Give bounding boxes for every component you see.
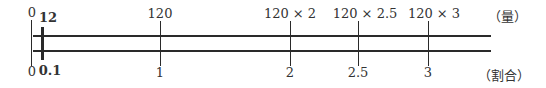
top-label-3: 120 × 3 — [408, 7, 460, 21]
tick-2-5 — [358, 21, 359, 66]
bottom-label-1: 1 — [156, 66, 164, 80]
top-label-1: 120 — [148, 7, 173, 21]
top-label-2-5: 120 × 2.5 — [333, 7, 398, 21]
top-label-2: 120 × 2 — [264, 7, 316, 21]
tick-3 — [428, 21, 429, 66]
highlight-tick — [41, 27, 44, 60]
quantity-line — [33, 35, 491, 37]
ratio-unit-label: （割合） — [478, 65, 530, 84]
tick-1 — [160, 21, 161, 66]
ratio-line — [33, 50, 491, 52]
tick-2 — [290, 21, 291, 66]
bottom-label-highlight: 0.1 — [39, 64, 62, 78]
zero-tick — [31, 20, 32, 66]
top-label-zero: 0 — [28, 6, 36, 20]
top-label-highlight: 12 — [39, 11, 57, 25]
bottom-label-2: 2 — [286, 66, 294, 80]
bottom-label-3: 3 — [424, 66, 432, 80]
bottom-label-2-5: 2.5 — [348, 66, 369, 80]
bottom-label-zero: 0 — [28, 65, 36, 79]
quantity-unit-label: （量） — [488, 6, 527, 25]
